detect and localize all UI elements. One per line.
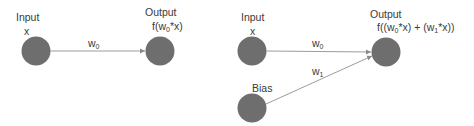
weight-label-w1: w1 — [311, 65, 324, 78]
output-formula: f((w0*x) + (w1*x)) — [377, 21, 455, 34]
input-variable: x — [250, 25, 256, 37]
bias-node — [238, 94, 267, 123]
input-label: Input — [241, 11, 264, 23]
neural-network-diagrams: Input x w0 Output f(w0*x) Input x Bias w… — [0, 0, 474, 126]
input-node — [238, 37, 267, 66]
output-label: Output — [370, 8, 402, 20]
bias-label: Bias — [252, 82, 272, 94]
output-node — [146, 37, 175, 66]
input-variable: x — [24, 25, 30, 37]
single-input-perceptron: Input x w0 Output f(w0*x) — [16, 6, 183, 66]
output-node — [372, 38, 401, 67]
weight-edge-w1 — [266, 56, 372, 104]
output-formula: f(w0*x) — [152, 20, 183, 33]
output-label: Output — [145, 6, 177, 18]
input-node — [22, 37, 51, 66]
input-with-bias-perceptron: Input x Bias w0 w1 Output f((w0*x) + (w1… — [238, 8, 455, 123]
weight-edge-w0 — [266, 51, 371, 52]
input-label: Input — [16, 11, 39, 23]
weight-label-w0: w0 — [87, 37, 100, 50]
weight-label-w0: w0 — [311, 37, 324, 50]
